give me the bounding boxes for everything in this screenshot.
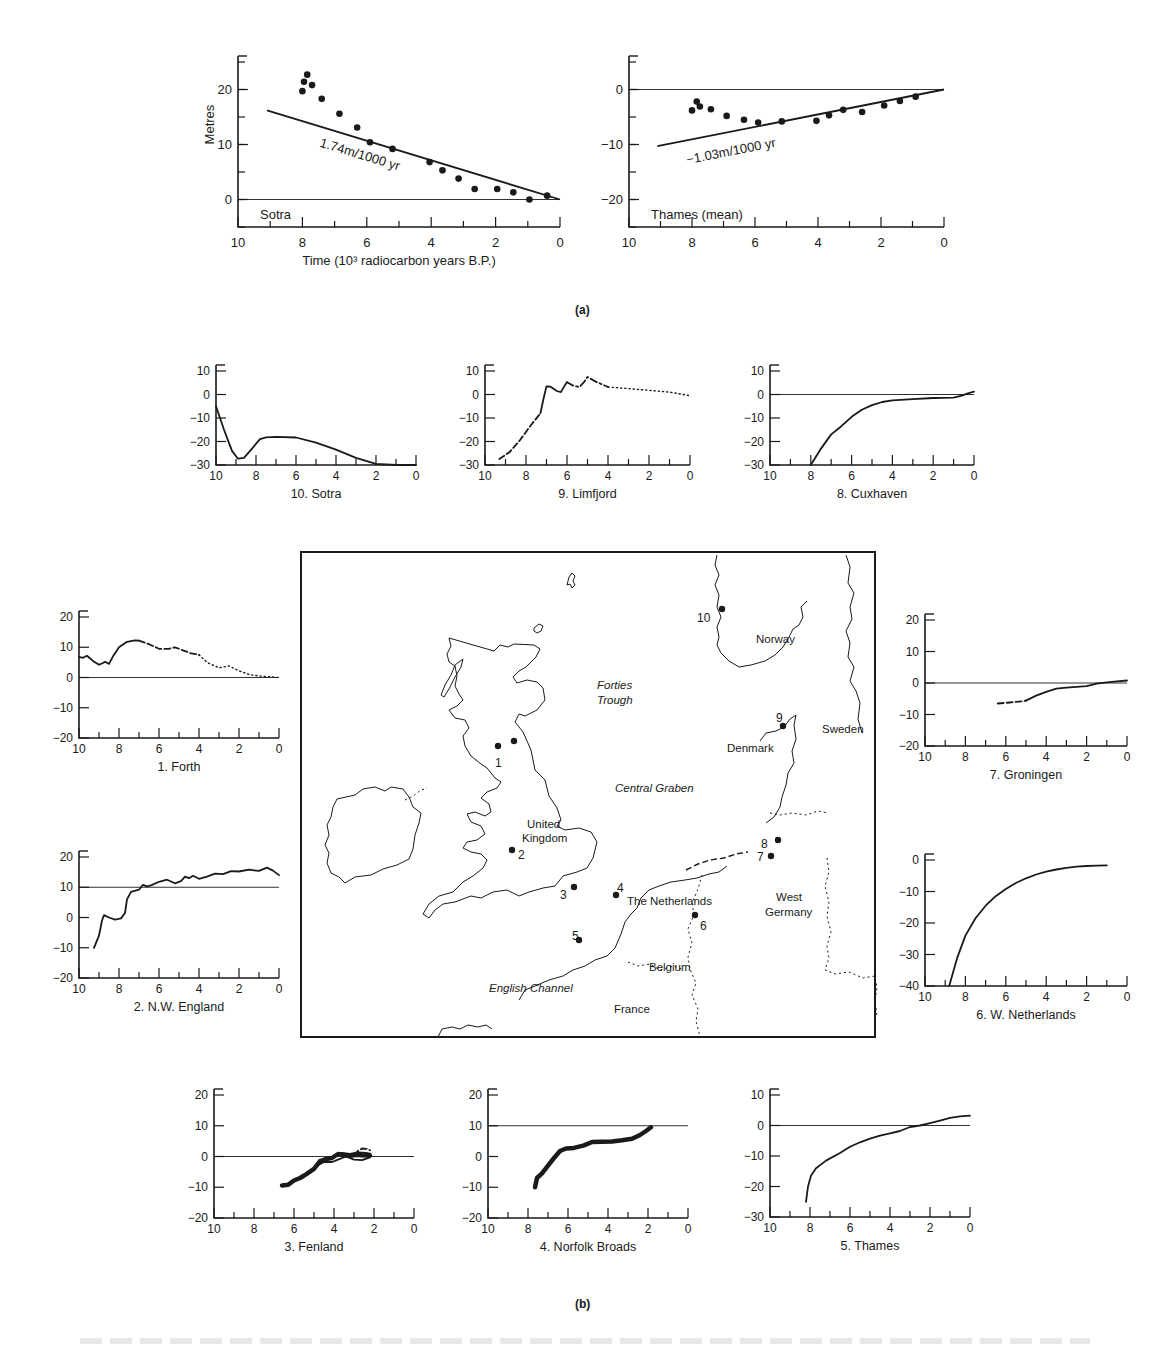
site-number: 5	[572, 929, 579, 943]
x-tick-label: 6	[293, 469, 300, 483]
x-tick-label: 4	[605, 1222, 612, 1236]
y-tick-label: 20	[218, 82, 232, 97]
y-tick-label: 0	[616, 82, 623, 97]
x-tick-label: 10	[918, 750, 932, 764]
map-sites: 12345678910	[495, 606, 786, 943]
x-tick-label: 4	[605, 469, 612, 483]
data-point	[318, 96, 325, 103]
x-tick-label: 2	[1083, 750, 1090, 764]
data-point	[689, 107, 696, 114]
x-tick-label: 6	[291, 1222, 298, 1236]
chart-title: 8. Cuxhaven	[837, 487, 907, 501]
y-tick-label: −20	[899, 739, 920, 753]
y-tick-label: 0	[203, 388, 210, 402]
x-tick-label: 2	[927, 1221, 934, 1235]
ireland-coast	[325, 787, 421, 883]
x-tick-label: 0	[276, 982, 283, 996]
y-tick-label: −10	[53, 701, 74, 715]
x-tick-label: 6	[1002, 750, 1009, 764]
chart-b_nw_england: 108642020100−10−202. N.W. England	[53, 850, 283, 1014]
x-tick-label: 6	[156, 742, 163, 756]
y-tick-label: 10	[195, 1119, 209, 1133]
x-tick-label: 2	[930, 469, 937, 483]
curve-solid	[94, 868, 279, 948]
site-number: 9	[776, 711, 783, 725]
data-point	[897, 98, 904, 105]
chart-b_sotra: 1086420100−10−20−3010. Sotra	[190, 364, 420, 501]
data-point	[299, 88, 306, 95]
data-point	[301, 79, 308, 86]
x-tick-label: 4	[333, 469, 340, 483]
x-tick-label: 8	[525, 1222, 532, 1236]
data-point	[439, 167, 446, 174]
chart-title: 1. Forth	[157, 760, 200, 774]
x-tick-label: 10	[478, 469, 492, 483]
chart-b_thames: 1086420100−10−20−305. Thames	[744, 1088, 974, 1253]
chart-title: 4. Norfolk Broads	[540, 1240, 637, 1254]
x-tick-label: 0	[411, 1222, 418, 1236]
norway-coast	[715, 555, 807, 667]
x-tick-label: 10	[481, 1222, 495, 1236]
site-number: 6	[700, 919, 707, 933]
data-point	[813, 118, 820, 125]
x-tick-label: 8	[807, 469, 814, 483]
x-tick-label: 6	[565, 1222, 572, 1236]
y-tick-label: 0	[472, 388, 479, 402]
map-label: Germany	[765, 906, 813, 918]
data-point	[544, 192, 551, 199]
site-number: 4	[617, 881, 624, 895]
chart-title: 9. Limfjord	[558, 487, 616, 501]
curve-solid	[949, 865, 1107, 986]
x-tick-label: 4	[887, 1221, 894, 1235]
trend-label: −1.03m/1000 yr	[685, 135, 778, 167]
former-coastline-netherlands	[686, 852, 748, 870]
x-tick-label: 10	[72, 742, 86, 756]
data-point	[526, 196, 533, 203]
x-tick-label: 4	[889, 469, 896, 483]
chart-title: 3. Fenland	[284, 1240, 343, 1254]
data-point	[336, 110, 343, 117]
y-tick-label: 0	[912, 676, 919, 690]
y-axis-label: Metres	[202, 104, 217, 144]
x-tick-label: 10	[763, 469, 777, 483]
x-tick-label: 0	[276, 742, 283, 756]
curve-solid	[811, 392, 974, 465]
map-label: Sweden	[822, 723, 864, 735]
y-tick-label: 20	[195, 1088, 209, 1102]
trend-label: 1.74m/1000 yr	[318, 135, 403, 174]
chart-b_w_netherlands: 10864200−10−20−30−406. W. Netherlands	[899, 853, 1131, 1022]
x-tick-label: 6	[156, 982, 163, 996]
data-point	[723, 113, 730, 120]
y-tick-label: −10	[53, 941, 74, 955]
data-point	[309, 82, 316, 89]
border-ireland	[405, 788, 427, 800]
y-tick-label: 20	[469, 1088, 483, 1102]
chart-title: 7. Groningen	[990, 768, 1062, 782]
axes	[214, 1089, 414, 1218]
site-number: 7	[757, 850, 764, 864]
trend-line	[267, 110, 560, 199]
y-tick-label: 0	[475, 1150, 482, 1164]
x-tick-label: 0	[687, 469, 694, 483]
chart-b_norfolk_broads: 108642020100−10−204. Norfolk Broads	[462, 1088, 692, 1254]
curve-dotted	[199, 655, 279, 678]
data-point	[912, 93, 919, 100]
x-tick-label: 0	[1124, 990, 1131, 1004]
data-point	[826, 112, 833, 119]
y-tick-label: 10	[751, 1088, 765, 1102]
x-tick-label: 2	[645, 1222, 652, 1236]
x-tick-label: 10	[231, 235, 245, 250]
site-number: 10	[697, 611, 711, 625]
x-tick-label: 8	[299, 235, 306, 250]
site-marker	[719, 606, 725, 612]
y-tick-label: 0	[757, 388, 764, 402]
y-tick-label: 0	[66, 911, 73, 925]
curve-dashed	[998, 701, 1026, 704]
curve-dashed	[499, 413, 540, 459]
data-point	[741, 116, 748, 123]
curve-dotted	[608, 387, 690, 396]
site-marker	[768, 853, 774, 859]
axes	[485, 365, 690, 465]
y-tick-label: −30	[899, 948, 920, 962]
x-tick-label: 2	[877, 235, 884, 250]
